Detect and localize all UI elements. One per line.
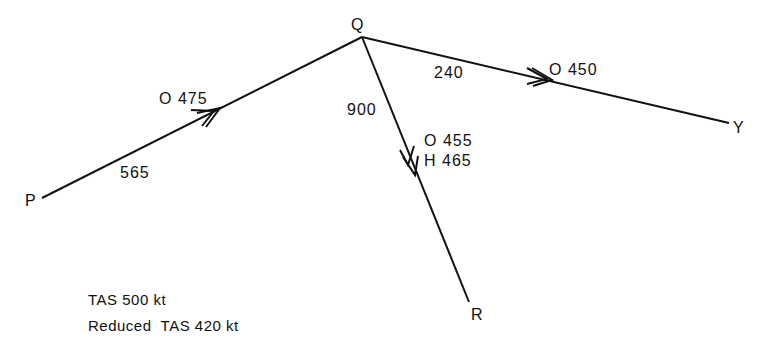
double-arrow-icon bbox=[400, 146, 418, 175]
distance-q-r: 900 bbox=[347, 101, 377, 118]
point-label-y: Y bbox=[733, 119, 745, 136]
track-p-q: O 475 bbox=[159, 90, 208, 107]
tas-note: TAS 500 kt bbox=[88, 291, 166, 308]
leg-p-q bbox=[42, 37, 362, 198]
point-label-q: Q bbox=[351, 16, 364, 33]
point-label-r: R bbox=[471, 306, 484, 323]
heading-q-r: H 465 bbox=[424, 152, 472, 169]
point-label-p: P bbox=[25, 192, 37, 209]
navigation-diagram: P Q Y R 565 O 475 240 O 450 900 O 455 H … bbox=[0, 0, 768, 356]
track-q-y: O 450 bbox=[549, 61, 598, 78]
track-q-r: O 455 bbox=[424, 132, 473, 149]
distance-p-q: 565 bbox=[120, 164, 150, 181]
distance-q-y: 240 bbox=[434, 64, 464, 81]
reduced-tas-note: Reduced TAS 420 kt bbox=[88, 317, 239, 334]
